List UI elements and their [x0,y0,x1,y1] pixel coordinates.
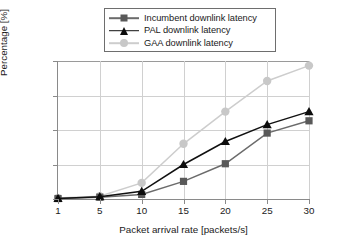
x-axis-tick-label: 5 [97,205,102,216]
y-axis-tick [53,165,58,166]
x-axis-tick [309,199,310,204]
y-axis-tick [53,96,58,97]
series-line [58,112,309,199]
legend-swatch-incumbent [109,12,139,24]
x-axis-tick-label: 20 [220,205,231,216]
x-axis-tick-label: 10 [136,205,147,216]
data-point-square [222,160,229,167]
square-marker-icon [121,15,128,22]
legend-swatch-gaa [109,37,139,49]
plot-area: 02250450067509000151015202530 [57,61,310,200]
x-axis-tick-label: 25 [262,205,273,216]
legend-label-incumbent: Incumbent downlink latency [139,13,257,24]
series-layer [58,61,310,199]
data-point-circle [137,179,145,187]
legend-label-pal: PAL downlink latency [139,25,230,36]
data-point-circle [263,77,271,85]
legend-item-incumbent[interactable]: Incumbent downlink latency [109,12,270,25]
data-point-circle [221,107,229,115]
chart-figure: Incumbent downlink latency PAL downlink … [0,0,338,251]
legend-label-gaa: GAA downlink latency [139,38,233,49]
data-point-square [180,178,187,185]
series-square [54,117,312,202]
data-point-circle [179,140,187,148]
circle-marker-icon [120,39,128,47]
x-axis-tick-label: 1 [55,205,60,216]
x-axis-tick [225,199,226,204]
y-axis-title: Percentage [%] [0,9,9,76]
legend-item-gaa[interactable]: GAA downlink latency [109,37,270,50]
x-axis-title: Packet arrival rate [packets/s] [57,224,310,235]
x-axis-tick [184,199,185,204]
legend-item-pal[interactable]: PAL downlink latency [109,25,270,38]
x-axis-tick [267,199,268,204]
triangle-marker-icon [120,27,128,35]
x-axis-tick-label: 15 [178,205,189,216]
y-axis-tick [53,130,58,131]
x-axis-tick [142,199,143,204]
x-axis-tick-label: 30 [304,205,315,216]
series-triangle [53,107,313,202]
chart-legend: Incumbent downlink latency PAL downlink … [104,8,276,52]
y-axis-tick [53,61,58,62]
data-point-circle [305,61,313,69]
x-axis-tick [58,199,59,204]
x-axis-tick [100,199,101,204]
data-point-triangle [304,107,313,115]
data-point-square [264,129,271,136]
series-line [58,121,309,199]
legend-swatch-pal [109,25,139,37]
data-point-triangle [179,160,188,168]
data-point-square [305,117,312,124]
